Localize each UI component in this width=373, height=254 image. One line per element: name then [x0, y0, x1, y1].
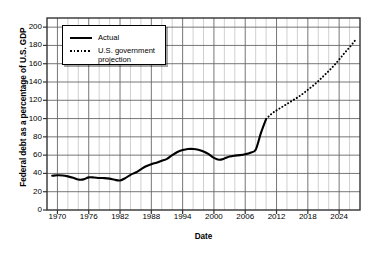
series-line-actual	[52, 119, 266, 181]
legend-swatch-solid-icon	[70, 33, 92, 42]
caption-fragment	[0, 245, 373, 254]
legend-label-projection: U.S. government projection	[98, 46, 155, 64]
legend: Actual U.S. government projection	[62, 25, 166, 65]
series-line-projection	[266, 41, 355, 119]
chart-figure: Federal debt as a percentage of U.S. GDP…	[0, 0, 373, 254]
legend-item-projection: U.S. government projection	[70, 46, 155, 64]
legend-label-actual: Actual	[98, 33, 119, 42]
legend-swatch-dotted-icon	[70, 46, 92, 55]
legend-item-actual: Actual	[70, 33, 119, 42]
plot-area	[0, 0, 373, 254]
